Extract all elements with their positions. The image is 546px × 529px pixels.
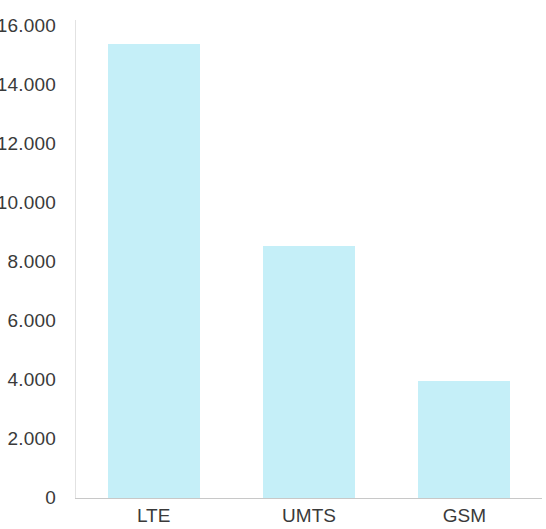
bar-umts <box>263 246 355 498</box>
y-axis-tick-label: 6.000 <box>7 311 56 330</box>
x-axis-tick-labels: LTEUMTSGSM <box>0 505 546 529</box>
x-axis-line <box>75 498 542 499</box>
bar-lte <box>108 44 200 498</box>
bar-gsm <box>418 381 510 498</box>
x-axis-tick-label: UMTS <box>282 505 336 527</box>
y-axis-tick-label: 8.000 <box>7 252 56 271</box>
plot-area <box>76 26 542 498</box>
y-axis-tick-label: 12.000 <box>0 134 56 153</box>
x-axis-tick-label: GSM <box>443 505 486 527</box>
y-axis-tick-label: 4.000 <box>7 370 56 389</box>
y-axis-tick-label: 2.000 <box>7 429 56 448</box>
bar-chart: 02.0004.0006.0008.00010.00012.00014.0001… <box>0 0 546 529</box>
y-axis-tick-labels: 02.0004.0006.0008.00010.00012.00014.0001… <box>0 0 68 529</box>
x-axis-tick-label: LTE <box>137 505 170 527</box>
y-axis-tick-label: 10.000 <box>0 193 56 212</box>
y-axis-tick-label: 16.000 <box>0 16 56 35</box>
y-axis-tick-label: 14.000 <box>0 75 56 94</box>
